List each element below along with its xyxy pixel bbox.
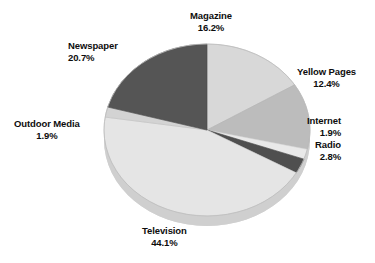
- pie-chart-figure: Magazine 16.2% Newspaper 20.7% Yellow Pa…: [0, 0, 375, 263]
- pie-label-radio-value: 2.8%: [233, 151, 341, 163]
- pie-label-outdoor-media: Outdoor Media 1.9%: [14, 118, 80, 142]
- pie-label-television-name: Television: [142, 225, 187, 237]
- pie-label-internet-value: 1.9%: [233, 127, 341, 139]
- pie-label-yellow-pages-value: 12.4%: [297, 78, 356, 90]
- pie-label-television: Television 44.1%: [142, 225, 187, 249]
- pie-label-outdoor-media-value: 1.9%: [14, 130, 80, 142]
- pie-label-radio-name: Radio: [233, 139, 341, 151]
- pie-label-newspaper: Newspaper 20.7%: [68, 40, 118, 64]
- pie-label-newspaper-name: Newspaper: [68, 40, 118, 52]
- pie-label-internet-name: Internet: [233, 115, 341, 127]
- pie-label-magazine-name: Magazine: [190, 10, 232, 22]
- pie-label-outdoor-media-name: Outdoor Media: [14, 118, 80, 130]
- pie-label-yellow-pages: Yellow Pages 12.4%: [297, 66, 356, 90]
- pie-label-internet: Internet 1.9%: [233, 115, 341, 139]
- pie-label-magazine: Magazine 16.2%: [190, 10, 232, 34]
- pie-label-yellow-pages-name: Yellow Pages: [297, 66, 356, 78]
- pie-label-television-value: 44.1%: [142, 237, 187, 249]
- pie-label-magazine-value: 16.2%: [190, 22, 232, 34]
- pie-label-radio: Radio 2.8%: [233, 139, 341, 163]
- pie-label-newspaper-value: 20.7%: [68, 52, 118, 64]
